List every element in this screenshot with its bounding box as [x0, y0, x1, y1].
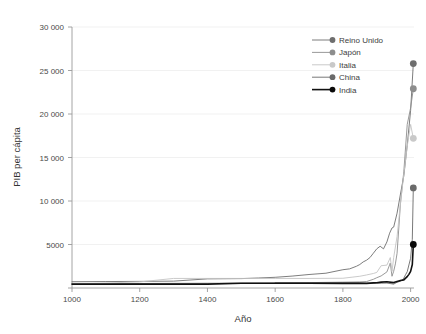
legend-label-italia: Italia	[339, 61, 356, 70]
x-axis-tick-label: 2000	[402, 295, 420, 304]
legend-marker-swatch	[330, 50, 336, 56]
x-axis-tick-label: 1800	[334, 295, 352, 304]
x-axis-tick-label: 1400	[199, 295, 217, 304]
legend-marker-swatch	[330, 74, 336, 80]
chart-container: 500010 00015 00020 00025 00030 000 10001…	[0, 0, 426, 334]
legend-label-india: India	[339, 86, 357, 95]
legend-marker-swatch	[330, 62, 336, 68]
endpoint-marker-china	[410, 185, 417, 192]
endpoint-marker-india	[410, 241, 417, 248]
legend-label-reino-unido: Reino Unido	[339, 36, 384, 45]
gdp-per-capita-line-chart: 500010 00015 00020 00025 00030 000 10001…	[0, 0, 426, 334]
y-axis-tick-label: 20 000	[40, 110, 65, 119]
legend-label-china: China	[339, 73, 360, 82]
y-axis-title: PIB per cápita	[11, 126, 22, 186]
y-axis-tick-label: 30 000	[40, 23, 65, 32]
legend-label-japón: Japón	[339, 48, 361, 57]
legend-marker-swatch	[330, 87, 336, 93]
endpoint-marker-japón	[410, 85, 417, 92]
endpoint-marker-italia	[410, 135, 417, 142]
y-axis-tick-label: 10 000	[40, 197, 65, 206]
x-axis-tick-label: 1600	[266, 295, 284, 304]
x-axis-tick-label: 1000	[63, 295, 81, 304]
x-axis-title: Año	[235, 313, 252, 324]
y-axis-tick-label: 15 000	[40, 154, 65, 163]
x-axis-tick-label: 1200	[131, 295, 149, 304]
y-axis-tick-label: 5000	[46, 241, 64, 250]
y-axis-tick-label: 25 000	[40, 67, 65, 76]
endpoint-marker-reino-unido	[410, 60, 417, 67]
legend-marker-swatch	[330, 37, 336, 43]
